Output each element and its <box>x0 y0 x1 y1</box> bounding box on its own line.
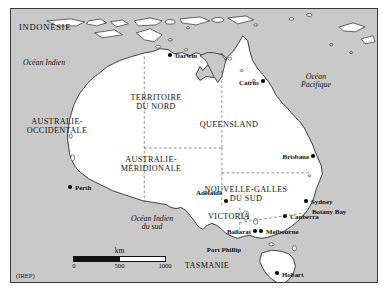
city-dot-melbourne <box>259 229 263 233</box>
city-dot-hobart <box>275 271 279 275</box>
bass-strait-islets <box>269 243 296 251</box>
scale-bar-fill <box>74 257 120 261</box>
city-dot-brisbane <box>311 154 315 158</box>
city-dot-darwin <box>168 53 172 57</box>
map-geometry <box>11 9 377 282</box>
scale-bar-ticks: 0 500 1000 <box>73 262 166 271</box>
map-frame: INDONÉSIEOcéan IndienOcéanPacifiqueOcéan… <box>10 8 378 283</box>
city-dot-cairns <box>261 79 265 83</box>
city-dot-perth <box>68 185 72 189</box>
australia-map-figure: INDONÉSIEOcéan IndienOcéanPacifiqueOcéan… <box>0 0 389 298</box>
tasmania-island <box>260 250 296 282</box>
indonesia-islands <box>47 13 375 53</box>
scale-bar-unit: km <box>73 246 166 255</box>
scale-bar: km 0 500 1000 <box>73 246 166 271</box>
australia-mainland <box>68 36 323 239</box>
city-dot-sydney <box>304 199 308 203</box>
scale-tick-0: 0 <box>72 262 75 269</box>
city-dot-adelaide <box>224 199 228 203</box>
scale-tick-1: 500 <box>115 262 125 269</box>
city-dot-ballarat <box>253 229 257 233</box>
scale-tick-2: 1000 <box>158 262 171 269</box>
city-dot-canberra <box>283 214 287 218</box>
map-credit: (IREP) <box>16 272 35 279</box>
